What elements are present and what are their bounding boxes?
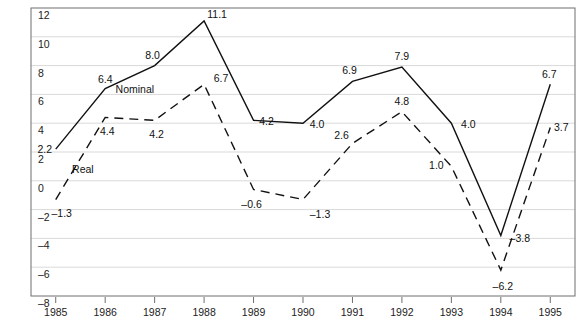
svg-text:1991: 1991 (341, 306, 365, 318)
svg-text:–1.3: –1.3 (52, 207, 73, 219)
svg-text:Nominal: Nominal (116, 83, 155, 95)
svg-text:4.4: 4.4 (100, 125, 115, 137)
svg-text:3.7: 3.7 (554, 121, 569, 133)
svg-text:10: 10 (38, 38, 50, 50)
svg-text:Real: Real (72, 163, 94, 175)
svg-text:–1.3: –1.3 (310, 208, 331, 220)
x-axis-ticks (56, 297, 551, 303)
x-axis-labels: 1985198619871988198919901991199219931994… (44, 306, 562, 318)
svg-text:–4: –4 (38, 239, 50, 251)
svg-text:12: 12 (38, 9, 50, 21)
svg-text:–6.2: –6.2 (493, 280, 514, 292)
svg-text:6.9: 6.9 (342, 64, 357, 76)
svg-text:4.2: 4.2 (149, 128, 164, 140)
svg-text:4.8: 4.8 (395, 95, 410, 107)
svg-text:1995: 1995 (539, 306, 563, 318)
svg-text:4.0: 4.0 (310, 118, 325, 130)
svg-text:4: 4 (38, 124, 44, 136)
svg-text:6.4: 6.4 (98, 73, 113, 85)
svg-text:1994: 1994 (489, 306, 513, 318)
svg-text:2.6: 2.6 (334, 129, 349, 141)
svg-text:1989: 1989 (242, 306, 266, 318)
svg-text:1992: 1992 (390, 306, 414, 318)
y-axis-labels: 121086420–2–4–6–8 (38, 9, 50, 309)
svg-text:1985: 1985 (44, 306, 68, 318)
svg-text:6: 6 (38, 95, 44, 107)
line-chart: 121086420–2–4–6–8 1985198619871988198919… (0, 0, 588, 320)
svg-text:–0.6: –0.6 (241, 198, 262, 210)
svg-text:11.1: 11.1 (207, 8, 227, 20)
svg-text:1.0: 1.0 (429, 159, 444, 171)
svg-text:2.2: 2.2 (37, 143, 52, 155)
chart-container: 121086420–2–4–6–8 1985198619871988198919… (0, 0, 588, 320)
svg-text:1988: 1988 (192, 306, 216, 318)
svg-text:1990: 1990 (291, 306, 315, 318)
svg-text:4.2: 4.2 (259, 115, 274, 127)
series-real-point-labels: –1.34.44.26.7–0.6–1.32.64.81.0–6.23.7 (52, 72, 569, 292)
plot-gridlines (31, 37, 575, 267)
svg-text:–6: –6 (38, 268, 50, 280)
series-nominal-line (56, 21, 551, 236)
svg-text:6.7: 6.7 (214, 72, 229, 84)
svg-text:4.0: 4.0 (461, 118, 476, 130)
svg-text:1993: 1993 (440, 306, 464, 318)
svg-text:0: 0 (38, 182, 44, 194)
svg-text:8: 8 (38, 67, 44, 79)
series-real-line (56, 84, 551, 270)
series-nominal-point-labels: 2.26.48.011.14.24.06.97.94.0–3.86.7 (37, 8, 556, 244)
svg-text:8.0: 8.0 (145, 49, 160, 61)
svg-text:1987: 1987 (143, 306, 167, 318)
svg-text:–3.8: –3.8 (510, 232, 531, 244)
svg-text:6.7: 6.7 (542, 68, 557, 80)
svg-text:7.9: 7.9 (395, 50, 410, 62)
svg-text:–2: –2 (38, 211, 50, 223)
svg-text:1986: 1986 (94, 306, 118, 318)
